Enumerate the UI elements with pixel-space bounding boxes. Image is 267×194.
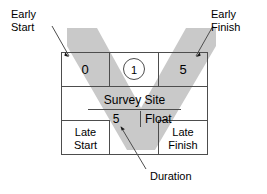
duration-callout-label: Duration: [150, 170, 192, 183]
activity-name-value: Survey Site: [62, 94, 207, 107]
early-start-leader-line: [52, 26, 69, 56]
early-start-value: 0: [61, 63, 109, 76]
early-start-callout-label: Early Start: [11, 8, 36, 33]
float-label: Float: [145, 113, 205, 126]
duration-value: 5: [96, 113, 136, 126]
late-start-label: Late Start: [62, 126, 109, 151]
late-finish-label: Late Finish: [159, 126, 207, 151]
early-finish-callout-label: Early Finish: [211, 8, 240, 33]
cpm-activity-node-diagram: Early Start Early Finish Duration 0 1 5 …: [0, 0, 267, 194]
activity-id-value: 1: [110, 64, 158, 77]
early-finish-value: 5: [159, 63, 207, 76]
